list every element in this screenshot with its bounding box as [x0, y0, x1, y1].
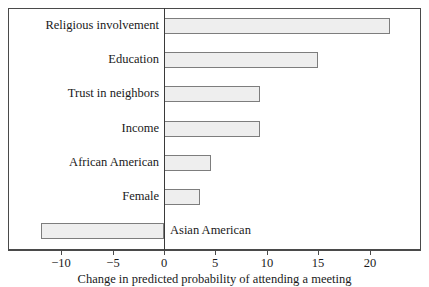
x-axis-tick-label: 5: [195, 256, 235, 271]
bar-category-label: Religious involvement: [45, 17, 159, 34]
x-axis-tick: [267, 250, 268, 255]
x-axis-tick: [113, 250, 114, 255]
bar[interactable]: [164, 155, 211, 171]
x-axis-tick: [370, 250, 371, 255]
bar-row: Religious involvement: [0, 9, 429, 43]
bar-row: African American: [0, 146, 429, 180]
bar-category-label: Trust in neighbors: [68, 85, 159, 102]
x-axis-tick: [61, 250, 62, 255]
bar[interactable]: [164, 189, 200, 205]
x-axis-tick: [318, 250, 319, 255]
x-axis-tick-label: 15: [298, 256, 338, 271]
bar-category-label: African American: [69, 154, 159, 171]
bar-category-label: Female: [122, 188, 159, 205]
bar-category-label: Asian American: [170, 222, 251, 239]
x-axis-tick-label: −5: [93, 256, 133, 271]
bar[interactable]: [41, 223, 164, 239]
bar[interactable]: [164, 18, 390, 34]
bar-row: Female: [0, 180, 429, 214]
x-axis-tick: [164, 250, 165, 255]
x-axis-tick-label: −10: [41, 256, 81, 271]
bar-row: Asian American: [0, 214, 429, 248]
x-axis-tick: [215, 250, 216, 255]
zero-reference-line: [164, 8, 165, 250]
bar-row: Trust in neighbors: [0, 77, 429, 111]
bar[interactable]: [164, 52, 318, 68]
bar-category-label: Income: [122, 120, 159, 137]
bar-row: Income: [0, 112, 429, 146]
x-axis-tick-label: 20: [350, 256, 390, 271]
x-axis-caption: Change in predicted probability of atten…: [0, 272, 429, 287]
bar-category-label: Education: [108, 51, 159, 68]
bar[interactable]: [164, 121, 260, 137]
x-axis-tick-label: 10: [247, 256, 287, 271]
bar[interactable]: [164, 86, 260, 102]
bar-row: Education: [0, 43, 429, 77]
x-axis-tick-label: 0: [144, 256, 184, 271]
